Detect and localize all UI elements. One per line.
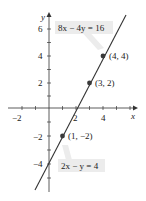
y-tick-label: 4 [38,51,43,61]
point-3-2 [87,81,92,86]
x-axis [8,106,138,111]
y-axis [47,12,52,192]
x-tick-label: 4 [101,113,106,123]
x-tick-label: −2 [12,113,22,123]
y-tick-label: 2 [38,78,43,88]
y-tick-label: 6 [38,24,43,34]
y-axis-label: y [40,12,45,22]
lower-equation-label: 2x − y = 4 [61,161,99,171]
lower-callout-pointer [62,145,72,160]
y-tick-label: −4 [33,159,43,169]
x-axis-label: x [130,111,135,121]
point-4-4 [101,54,106,59]
chart: y x −2 2 4 6 4 2 −2 −4 (4, 4) (3, 2) (1,… [0,0,146,201]
point-label: (3, 2) [95,78,115,88]
point-label: (4, 4) [109,51,129,61]
y-tick-label: −2 [33,132,43,142]
upper-equation-label: 8x − 4y = 16 [58,23,105,33]
point-1-neg2 [60,134,65,139]
point-label: (1, −2) [68,131,93,141]
